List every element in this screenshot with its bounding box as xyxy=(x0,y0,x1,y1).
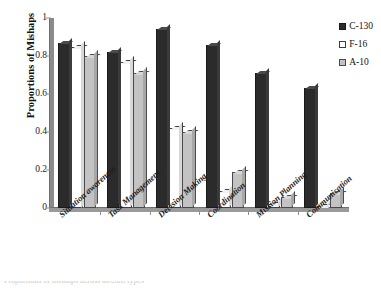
legend-swatch-icon xyxy=(339,23,346,30)
y-axis-tick-mark xyxy=(46,132,51,133)
bar-f-16-task-management xyxy=(120,62,132,208)
bar-c-130-mission-planning xyxy=(255,73,267,208)
y-axis-tick-mark xyxy=(46,208,51,209)
chart-legend: C-130F-16A-10 xyxy=(339,19,373,73)
y-axis-tick-mark xyxy=(46,170,51,171)
legend-label: C-130 xyxy=(349,19,373,34)
bar-c-130-task-management xyxy=(107,52,119,208)
legend-item-f-16: F-16 xyxy=(339,37,373,52)
y-axis-tick-mark xyxy=(46,18,51,19)
bar-chart-figure: Proportions of Mishaps 00.20.40.60.81 Si… xyxy=(0,0,381,290)
caption-text: Proportions of mishaps across aircraft t… xyxy=(4,281,144,285)
bar-c-130-situation-awareness xyxy=(58,43,70,208)
x-axis-category-labels: Situation awarenessTask ManagementDecisi… xyxy=(52,212,348,284)
bar-c-130-coordination xyxy=(206,45,218,208)
y-axis-tick-mark xyxy=(46,56,51,57)
legend-label: F-16 xyxy=(349,37,367,52)
bar-c-130-communication xyxy=(304,88,316,208)
legend-item-c-130: C-130 xyxy=(339,19,373,34)
y-axis-title: Proportions of Mishaps xyxy=(25,0,36,146)
legend-swatch-icon xyxy=(339,59,346,66)
y-axis-tick-mark xyxy=(46,94,51,95)
bar-f-16-situation-awareness xyxy=(71,47,83,209)
bar-group xyxy=(200,18,249,208)
legend-label: A-10 xyxy=(349,55,369,70)
bar-c-130-decision-making xyxy=(156,29,168,208)
legend-item-a-10: A-10 xyxy=(339,55,373,70)
caption-strip: Proportions of mishaps across aircraft t… xyxy=(0,281,381,290)
legend-swatch-icon xyxy=(339,41,346,48)
